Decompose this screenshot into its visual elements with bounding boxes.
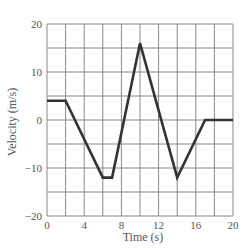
y-axis-label: Velocity (m/s)	[5, 88, 19, 156]
velocity-time-chart: 20100−10−20 048121620 Time (s) Velocity …	[0, 0, 251, 249]
x-tick-label: 4	[81, 219, 87, 231]
y-tick-label: 20	[31, 18, 43, 30]
y-axis-ticks: 20100−10−20	[25, 18, 43, 222]
y-tick-label: 0	[37, 114, 43, 126]
y-tick-label: 10	[31, 66, 43, 78]
x-tick-label: 0	[44, 219, 50, 231]
x-axis-label: Time (s)	[123, 230, 164, 244]
y-tick-label: −20	[25, 210, 43, 222]
x-tick-label: 20	[228, 219, 240, 231]
x-tick-label: 16	[190, 219, 202, 231]
y-tick-label: −10	[25, 162, 43, 174]
